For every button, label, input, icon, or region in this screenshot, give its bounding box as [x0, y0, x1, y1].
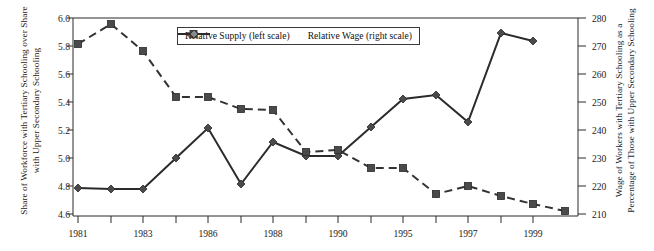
legend-swatch-solid-diamond — [178, 28, 210, 40]
x-axis-ticks — [78, 216, 533, 223]
left-axis-ticks — [67, 18, 73, 214]
right-axis-ticks — [578, 18, 586, 214]
plot-frame — [73, 18, 578, 216]
legend-label-relative-wage: Relative Wage (right scale) — [308, 30, 412, 41]
chart-legend: Relative Supply (left scale) Relative Wa… — [177, 27, 420, 45]
chart-figure: Share of Workforce with Tertiary Schooli… — [0, 0, 654, 251]
legend-entry-relative-wage: Relative Wage (right scale) — [308, 30, 412, 41]
